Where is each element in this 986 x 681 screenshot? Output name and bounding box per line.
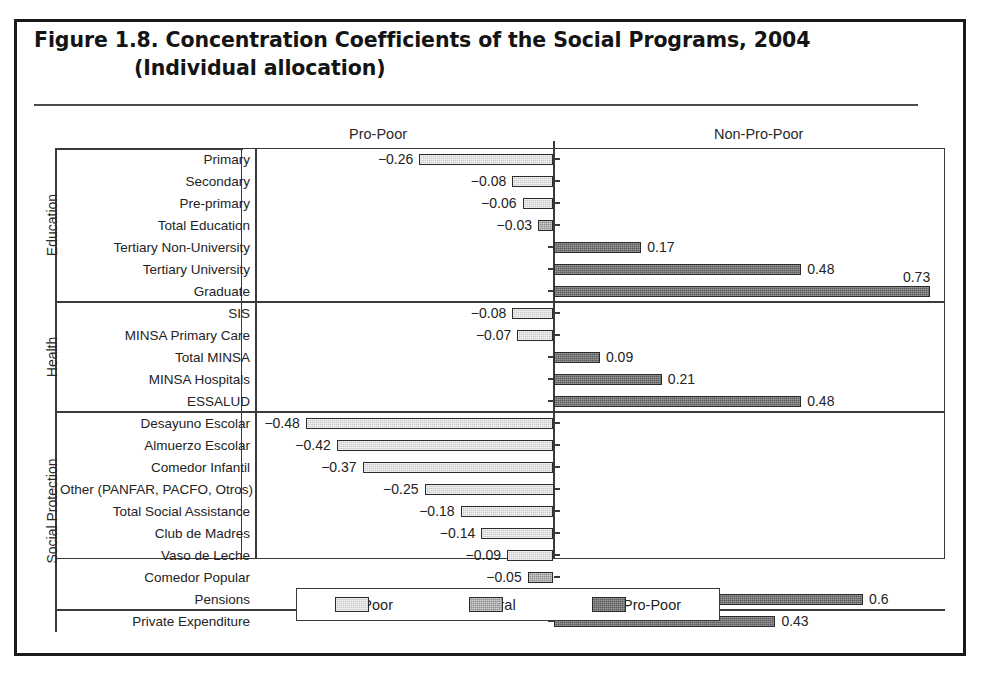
category-label: Club de Madres [60,526,250,541]
bar-pre-primary [523,198,554,209]
axis-tick [554,488,560,490]
axis-tick [554,180,560,182]
axis-tick [554,466,560,468]
bar-value-label: −0.08 [471,173,506,189]
group-bracket [55,610,57,632]
bar-value-label: −0.37 [321,459,356,475]
bar-value-label: −0.03 [497,217,532,233]
bar-value-label: −0.07 [476,327,511,343]
bar-value-label: 0.48 [807,261,834,277]
axis-tick [554,422,560,424]
axis-tick [554,158,560,160]
category-label: Vaso de Leche [60,548,250,563]
bar-sis [512,308,553,319]
legend-swatch-non-pro-poor [592,597,626,612]
group-label-health: Health [44,302,60,412]
category-label: Total MINSA [60,350,250,365]
bar-club-de-madres [481,528,553,539]
bar-almuerzo-escolar [337,440,554,451]
bar-value-label: 0.43 [781,613,808,629]
legend-swatch-neutral [469,597,503,612]
bar-essalud [554,396,802,407]
bar-value-label: −0.42 [295,437,330,453]
category-label: Total Social Assistance [60,504,250,519]
group-separator [55,301,945,303]
chart-legend: Pro-Poor Neutral Non-Pro-Poor [296,588,720,621]
bar-comedor-popular [528,572,554,583]
legend-item-neutral: Neutral [469,597,516,613]
axis-tick [554,532,560,534]
bar-value-label: 0.73 [903,269,930,285]
category-label: Graduate [60,284,250,299]
bar-tertiary-university [554,264,802,275]
category-label: Secondary [60,174,250,189]
bar-value-label: 0.48 [807,393,834,409]
category-label: Tertiary Non-University [60,240,250,255]
category-label: SIS [60,306,250,321]
bar-total-education [538,220,553,231]
axis-tick [554,444,560,446]
axis-tick [554,510,560,512]
axis-tick [554,312,560,314]
bar-value-label: −0.18 [419,503,454,519]
bar-vaso-de-leche [507,550,553,561]
axis-tick [554,334,560,336]
legend-item-non-pro-poor: Non-Pro-Poor [592,597,681,613]
bar-minsa-primary-care [517,330,553,341]
bar-value-label: −0.26 [378,151,413,167]
category-label: Primary [60,152,250,167]
axis-tick [554,202,560,204]
bar-desayuno-escolar [306,418,554,429]
category-label: Private Expenditure [60,614,250,629]
axis-tick [554,554,560,556]
bar-value-label: 0.6 [869,591,888,607]
bar-graduate [554,286,931,297]
axis-tick [554,576,560,578]
bar-secondary [512,176,553,187]
category-label: Pensions [60,592,250,607]
bar-tertiary-non-university [554,242,642,253]
category-label: Comedor Infantil [60,460,250,475]
legend-item-pro-poor: Pro-Poor [335,597,393,613]
bar-value-label: −0.08 [471,305,506,321]
bar-primary [419,154,553,165]
category-label: Comedor Popular [60,570,250,585]
category-label: Almuerzo Escolar [60,438,250,453]
bar-comedor-infantil [363,462,554,473]
bar-total-social-assistance [461,506,554,517]
group-separator [55,411,945,413]
category-label: MINSA Primary Care [60,328,250,343]
category-label: Tertiary University [60,262,250,277]
bar-total-minsa [554,352,600,363]
bar-value-label: 0.21 [668,371,695,387]
bar-value-label: −0.25 [383,481,418,497]
bar-value-label: −0.05 [486,569,521,585]
legend-swatch-pro-poor [335,597,369,612]
bar-value-label: −0.09 [466,547,501,563]
group-label-education: Education [44,148,60,302]
category-label: Desayuno Escolar [60,416,250,431]
category-label: ESSALUD [60,394,250,409]
category-label: Pre-primary [60,196,250,211]
bar-value-label: −0.06 [481,195,516,211]
axis-tick [554,224,560,226]
chart-rows: Primary−0.26Secondary−0.08Pre-primary−0.… [0,0,986,681]
bar-minsa-hospitals [554,374,662,385]
bar-value-label: −0.48 [264,415,299,431]
bar-value-label: 0.17 [647,239,674,255]
category-label: Other (PANFAR, PACFO, Otros) [60,482,250,497]
category-label: Total Education [60,218,250,233]
group-label-social-protection: Social Protection [44,412,60,610]
category-label: MINSA Hospitals [60,372,250,387]
bar-value-label: 0.09 [606,349,633,365]
bar-other-panfar-pacfo-otros [425,484,554,495]
bar-value-label: −0.14 [440,525,475,541]
